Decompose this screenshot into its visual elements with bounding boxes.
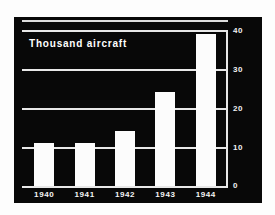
chart-title: Thousand aircraft [29, 38, 127, 49]
x-tick-label-1944: 1944 [186, 190, 226, 199]
bar-1943 [155, 92, 175, 186]
x-tick-label-1942: 1942 [105, 190, 145, 199]
x-tick-label-1943: 1943 [145, 190, 185, 199]
bar-1940 [34, 143, 54, 186]
gridline-40 [22, 30, 228, 32]
x-axis-baseline [22, 186, 228, 188]
bar-1944 [196, 34, 216, 186]
y-tick-label-20: 20 [233, 105, 243, 113]
y-tick-label-0: 0 [233, 182, 238, 190]
y-axis-line [226, 30, 228, 188]
x-tick-label-1941: 1941 [64, 190, 104, 199]
gridline-top-rule [22, 20, 228, 22]
y-tick-label-30: 30 [233, 66, 243, 74]
x-tick-label-1940: 1940 [24, 190, 64, 199]
bar-chart-panel: Thousand aircraft 40 30 20 10 0 1940 194… [14, 17, 262, 203]
chart-page: Thousand aircraft 40 30 20 10 0 1940 194… [0, 0, 275, 215]
y-tick-label-10: 10 [233, 144, 243, 152]
bar-1942 [115, 131, 135, 186]
bar-1941 [75, 143, 95, 186]
y-tick-label-40: 40 [233, 27, 243, 35]
